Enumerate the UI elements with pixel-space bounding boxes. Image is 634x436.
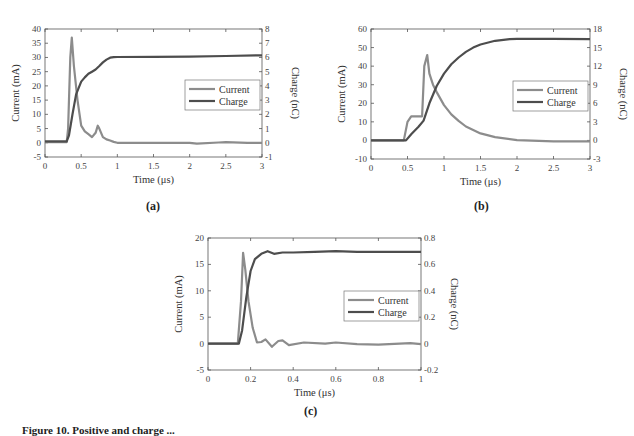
x-tick-label: 2	[515, 163, 520, 173]
y2-tick-label: 0	[424, 339, 429, 349]
y2-axis-label: Charge (nC)	[289, 67, 301, 120]
y2-tick-label: 8	[265, 24, 270, 34]
y2-tick-label: 18	[593, 24, 603, 34]
y2-tick-label: 0	[593, 135, 598, 145]
y2-tick-label: 3	[265, 95, 270, 105]
x-tick-label: 2.5	[220, 161, 232, 171]
x-tick-label: 0.6	[330, 374, 342, 384]
x-tick-label: 0	[369, 163, 374, 173]
y-tick-label: 35	[32, 38, 42, 48]
y-tick-label: 0	[363, 135, 368, 145]
y2-tick-label: 0.2	[424, 312, 435, 322]
chart-b: 00.511.522.53-100102030405060-3036912151…	[320, 0, 634, 200]
y2-tick-label: 12	[593, 61, 602, 71]
y2-tick-label: 4	[265, 81, 270, 91]
legend-label: Charge	[547, 97, 576, 108]
x-tick-label: 0.4	[288, 374, 300, 384]
y-tick-label: -5	[34, 152, 42, 162]
x-tick-label: 0.5	[402, 163, 414, 173]
y-tick-label: 40	[32, 24, 42, 34]
y-tick-label: -10	[355, 154, 367, 164]
y-axis-label: Current (mA)	[173, 275, 185, 333]
x-tick-label: 1	[442, 163, 447, 173]
chart-panel-a: 00.511.522.53-50510152025303540-10123456…	[0, 0, 317, 215]
x-tick-label: 1	[115, 161, 120, 171]
x-tick-label: 0.8	[373, 374, 385, 384]
y-tick-label: 20	[358, 98, 368, 108]
y2-tick-label: 0.4	[424, 286, 436, 296]
y2-tick-label: 7	[265, 38, 270, 48]
y-tick-label: 10	[358, 117, 368, 127]
y-tick-label: 5	[200, 312, 205, 322]
x-axis-label: Time (μs)	[294, 387, 336, 399]
y-tick-label: 15	[195, 259, 205, 269]
y2-tick-label: 5	[265, 67, 270, 77]
x-tick-label: 3	[588, 163, 593, 173]
panel-label-a: (a)	[146, 199, 160, 214]
y2-tick-label: 0.8	[424, 233, 436, 243]
y2-tick-label: 2	[265, 109, 270, 119]
x-tick-label: 0	[206, 374, 211, 384]
legend: CurrentCharge	[185, 80, 260, 110]
x-tick-label: 0.2	[245, 374, 256, 384]
legend-label: Current	[219, 84, 250, 95]
panel-label-b: (b)	[474, 199, 489, 214]
y-axis-label: Current (mA)	[10, 64, 22, 122]
y2-tick-label: 0.6	[424, 259, 436, 269]
legend-label: Current	[378, 295, 409, 306]
y-tick-label: 5	[37, 124, 42, 134]
legend: CurrentCharge	[513, 81, 588, 111]
y-tick-label: -5	[197, 365, 205, 375]
y2-axis-label: Charge (nC)	[617, 68, 629, 121]
y-tick-label: 20	[195, 233, 205, 243]
y-tick-label: 60	[358, 24, 368, 34]
y-tick-label: 0	[200, 339, 205, 349]
legend: CurrentCharge	[344, 291, 419, 321]
legend-label: Current	[547, 85, 578, 96]
y2-tick-label: 3	[593, 117, 598, 127]
y2-tick-label: 15	[593, 43, 603, 53]
chart-panel-b: 00.511.522.53-100102030405060-3036912151…	[320, 0, 634, 215]
y-tick-label: 0	[37, 138, 42, 148]
y2-tick-label: 6	[593, 98, 598, 108]
y-tick-label: 10	[195, 286, 205, 296]
y2-axis-label: Charge (nC)	[448, 278, 460, 331]
x-axis-label: Time (μs)	[133, 174, 175, 186]
x-tick-label: 0.5	[76, 161, 88, 171]
x-tick-label: 2.5	[548, 163, 560, 173]
chart-a: 00.511.522.53-50510152025303540-10123456…	[0, 0, 317, 200]
y-tick-label: 10	[32, 109, 42, 119]
x-tick-label: 3	[260, 161, 265, 171]
x-tick-label: 0	[43, 161, 48, 171]
figure-caption: Figure 10. Positive and charge ...	[22, 424, 175, 436]
x-axis-label: Time (μs)	[460, 176, 502, 188]
y2-tick-label: -3	[593, 154, 601, 164]
y2-tick-label: -0.2	[424, 365, 438, 375]
x-tick-label: 1.5	[148, 161, 160, 171]
y-tick-label: 15	[32, 95, 42, 105]
y-tick-label: 30	[32, 52, 42, 62]
y2-tick-label: 1	[265, 124, 270, 134]
chart-panel-c: 00.20.40.60.81-505101520-0.200.20.40.60.…	[160, 220, 480, 395]
x-tick-label: 1	[419, 374, 424, 384]
y-tick-label: 20	[32, 81, 42, 91]
y-tick-label: 40	[358, 61, 368, 71]
y2-tick-label: 6	[265, 52, 270, 62]
y2-tick-label: 9	[593, 80, 598, 90]
y2-tick-label: -1	[265, 152, 273, 162]
y-tick-label: 30	[358, 80, 368, 90]
y-tick-label: 50	[358, 43, 368, 53]
x-tick-label: 1.5	[475, 163, 487, 173]
y2-tick-label: 0	[265, 138, 270, 148]
panel-label-c: (c)	[304, 404, 317, 419]
y-axis-label: Current (mA)	[336, 65, 348, 123]
x-tick-label: 2	[187, 161, 192, 171]
legend-label: Charge	[378, 307, 407, 318]
legend-label: Charge	[219, 96, 248, 107]
y-tick-label: 25	[32, 67, 42, 77]
chart-c: 00.20.40.60.81-505101520-0.200.20.40.60.…	[160, 220, 480, 395]
